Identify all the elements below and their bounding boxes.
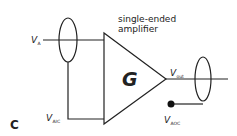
input-common-wire	[68, 62, 104, 119]
output-common-sub: AOC	[171, 121, 181, 126]
output-common-node-dot	[168, 101, 175, 108]
input-voltage-sub: A	[38, 41, 42, 46]
gain-symbol: G	[122, 68, 138, 90]
title-line2: amplifier	[118, 24, 158, 34]
output-voltage-sub: out	[177, 74, 185, 79]
single-ended-amplifier-diagram: single-ended amplifier G V A V AIC V out…	[0, 0, 237, 136]
panel-label: C	[10, 118, 19, 132]
title-line1: single-ended	[118, 14, 176, 24]
input-common-sub: AIC	[53, 119, 61, 124]
